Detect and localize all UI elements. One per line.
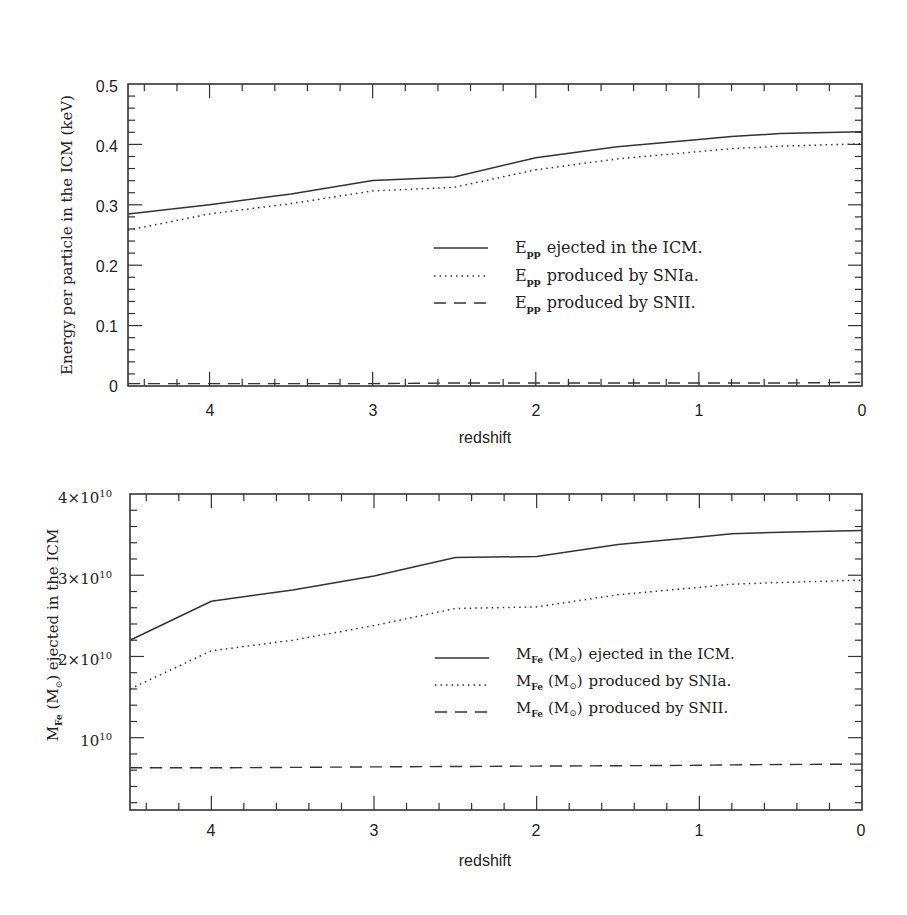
x-tick-label: 2 — [532, 822, 541, 839]
y-tick-label: 3×1010 — [58, 569, 112, 588]
bottom-plot-frame — [130, 494, 862, 810]
legend-label: MFe(M⊙)ejected in the ICM. — [516, 645, 735, 665]
legend-label: MFe(M⊙)produced by SNIa. — [516, 672, 731, 692]
bottom-legend: MFe(M⊙)ejected in the ICM. MFe(M⊙)produc… — [435, 645, 735, 719]
y-tick-label: 4×1010 — [58, 488, 112, 507]
y-axis-title: Energy per particle in the ICM (keV) — [58, 95, 76, 375]
x-tick-label: 1 — [695, 402, 704, 419]
series-line-snia — [130, 580, 862, 689]
top-plot: 0.5 0.4 0.3 0.2 0.1 0 4 3 2 1 0 redshift… — [58, 78, 867, 446]
legend-label: Eppejected in the ICM. — [515, 238, 703, 259]
series-line-snia — [128, 144, 862, 230]
y-tick-label: 2×1010 — [58, 650, 112, 669]
x-axis-title: redshift — [459, 429, 512, 446]
top-plot-ticks — [128, 84, 862, 386]
x-tick-label: 3 — [369, 402, 378, 419]
y-tick-label: 0.4 — [96, 138, 118, 155]
bottom-plot-ticks — [130, 494, 862, 810]
bottom-plot: 4×1010 3×1010 2×1010 1010 4 3 2 1 0 reds… — [44, 488, 866, 869]
y-tick-label: 1010 — [80, 731, 112, 750]
y-tick-label: 0.1 — [96, 318, 118, 335]
legend-label: Eppproduced by SNII. — [515, 293, 696, 314]
series-line-snii — [130, 764, 862, 768]
series-line-ejected — [128, 132, 862, 214]
y-tick-label: 0 — [109, 378, 118, 395]
legend-label: Eppproduced by SNIa. — [515, 266, 699, 287]
x-tick-label: 3 — [370, 822, 379, 839]
x-tick-label: 0 — [858, 402, 867, 419]
y-tick-label: 0.5 — [96, 78, 118, 95]
x-tick-label: 0 — [857, 822, 866, 839]
legend-label: MFe(M⊙)produced by SNII. — [516, 699, 728, 719]
y-tick-label: 0.3 — [96, 198, 118, 215]
figure: 0.5 0.4 0.3 0.2 0.1 0 4 3 2 1 0 redshift… — [0, 0, 907, 915]
top-legend: Eppejected in the ICM. Eppproduced by SN… — [434, 238, 703, 314]
series-line-snii — [128, 382, 862, 383]
x-tick-label: 4 — [207, 822, 216, 839]
top-plot-frame — [128, 84, 862, 386]
y-axis-title: MFe (M⊙) ejected in the ICM — [44, 529, 64, 742]
x-tick-label: 1 — [695, 822, 704, 839]
x-axis-title: redshift — [459, 852, 512, 869]
y-tick-label: 0.2 — [96, 258, 118, 275]
x-tick-label: 2 — [532, 402, 541, 419]
x-tick-label: 4 — [206, 402, 215, 419]
series-line-ejected — [130, 531, 862, 641]
